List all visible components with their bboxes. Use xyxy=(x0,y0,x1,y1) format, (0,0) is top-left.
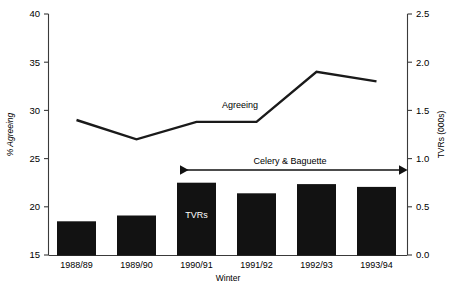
right-axis-title: TVRs (000s) xyxy=(436,110,446,158)
left-tick-label-20: 20 xyxy=(29,201,40,212)
bar-1989-90 xyxy=(117,216,156,256)
x-axis-title: Winter xyxy=(216,273,241,283)
x-axis-category-labels: 1988/89 1989/90 1990/91 1991/92 1992/93 … xyxy=(60,260,393,270)
line-series-agreeing: Agreeing xyxy=(77,72,377,140)
axis-left: 15 20 25 30 35 40 % Agreeing xyxy=(5,8,49,260)
right-tick-label-25: 2.5 xyxy=(416,8,429,19)
left-tick-label-25: 25 xyxy=(29,153,40,164)
right-tick-label-05: 0.5 xyxy=(416,201,429,212)
right-axis-tick-labels: 0.0 0.5 1.0 1.5 2.0 2.5 xyxy=(416,8,429,260)
right-tick-label-10: 1.0 xyxy=(416,153,429,164)
bar-series-inline-label: TVRs xyxy=(185,210,208,220)
campaign-span-arrow-label: Celery & Baguette xyxy=(253,156,326,166)
category-label-1992-93: 1992/93 xyxy=(300,260,333,270)
left-axis-tick-labels: 15 20 25 30 35 40 xyxy=(29,8,40,260)
bar-1992-93 xyxy=(297,184,336,255)
category-label-1989-90: 1989/90 xyxy=(120,260,153,270)
category-label-1991-92: 1991/92 xyxy=(240,260,273,270)
chart-container: 15 20 25 30 35 40 % Agreeing 0.0 0.5 xyxy=(0,0,455,286)
axis-right: 0.0 0.5 1.0 1.5 2.0 2.5 TVRs (000s) xyxy=(408,8,447,260)
left-axis-title: % Agreeing xyxy=(5,112,15,156)
right-axis-ticks xyxy=(408,14,413,255)
category-label-1990-91: 1990/91 xyxy=(180,260,213,270)
left-tick-label-15: 15 xyxy=(29,249,40,260)
bar-series-tvrs: TVRs xyxy=(57,183,396,256)
bar-1991-92 xyxy=(237,193,276,255)
category-label-1988-89: 1988/89 xyxy=(60,260,93,270)
right-tick-label-20: 2.0 xyxy=(416,57,429,68)
right-tick-label-15: 1.5 xyxy=(416,105,429,116)
line-series-inline-label: Agreeing xyxy=(222,100,258,110)
left-tick-label-30: 30 xyxy=(29,105,40,116)
right-tick-label-00: 0.0 xyxy=(416,249,429,260)
chart-canvas: 15 20 25 30 35 40 % Agreeing 0.0 0.5 xyxy=(0,0,455,286)
bar-1993-94 xyxy=(357,187,396,256)
left-tick-label-35: 35 xyxy=(29,57,40,68)
category-label-1993-94: 1993/94 xyxy=(360,260,393,270)
left-axis-ticks xyxy=(44,14,49,255)
campaign-span-arrow: Celery & Baguette xyxy=(180,156,399,170)
bar-1988-89 xyxy=(57,221,96,255)
left-tick-label-40: 40 xyxy=(29,8,40,19)
